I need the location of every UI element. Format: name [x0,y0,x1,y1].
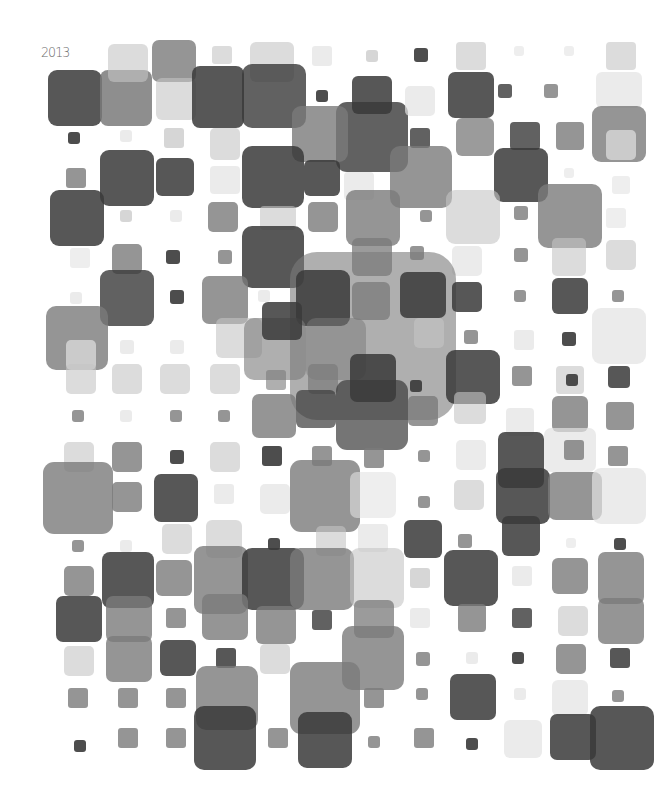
rounded-square [504,720,542,758]
rounded-square [312,610,332,630]
rounded-square [458,534,472,548]
rounded-square [514,46,524,56]
year-label: 2013 [41,44,69,60]
rounded-square [118,688,138,708]
rounded-square [512,566,532,586]
rounded-square [606,240,636,270]
rounded-square [120,410,132,422]
rounded-square [614,538,626,550]
rounded-square [112,364,142,394]
rounded-square [156,560,192,596]
rounded-square [290,548,354,610]
rounded-square [160,640,196,676]
rounded-square [514,206,528,220]
rounded-square [364,688,384,708]
rounded-square [514,330,534,350]
rounded-square [208,202,238,232]
rounded-square [66,168,86,188]
rounded-square [414,318,444,348]
rounded-square [252,394,296,438]
rounded-square [610,648,630,668]
rounded-square [170,340,184,354]
rounded-square [590,706,654,770]
rounded-square [552,278,588,314]
rounded-square [160,364,190,394]
rounded-square [308,202,338,232]
rounded-square [166,250,180,264]
rounded-square [606,42,636,70]
rounded-square [514,290,526,302]
rounded-square [43,462,113,534]
rounded-square [210,364,240,394]
rounded-square [606,130,636,160]
rounded-square [74,740,86,752]
rounded-square [452,246,482,276]
rounded-square [512,652,524,664]
rounded-square [298,712,352,768]
rounded-square [446,190,500,244]
rounded-square [400,272,446,318]
rounded-square [450,674,496,720]
rounded-square [454,480,484,510]
rounded-square [592,308,646,364]
rounded-square [118,728,138,748]
rounded-square [456,118,494,156]
rounded-square [218,250,232,264]
rounded-square [454,392,486,424]
rounded-square [120,130,132,142]
rounded-square [258,290,270,302]
rounded-square [456,440,486,470]
rounded-square [100,270,154,326]
rounded-square [418,496,430,508]
rounded-square [612,176,630,194]
rounded-square [410,608,430,628]
rounded-square [170,450,184,464]
rounded-square [120,210,132,222]
rounded-square [48,70,102,126]
rounded-square [466,738,478,750]
rounded-square [552,238,586,276]
rounded-square [606,208,626,228]
rounded-square [56,596,102,642]
rounded-square [410,568,430,588]
rounded-square [598,552,644,604]
rounded-square [544,84,558,98]
rounded-square [170,210,182,222]
rounded-square [152,40,196,82]
rounded-square [416,652,430,666]
rounded-square [405,86,435,116]
rounded-square [510,122,540,150]
rounded-square [404,520,442,558]
rounded-square [410,380,422,392]
rounded-square [120,340,134,354]
rounded-square [364,448,384,468]
rounded-square [210,128,240,160]
abstract-square-pattern-canvas: 2013 [0,0,654,797]
rounded-square [64,566,94,596]
rounded-square [552,680,588,716]
rounded-square [166,728,186,748]
rounded-square [502,516,540,556]
rounded-square [366,50,378,62]
rounded-square [256,606,296,644]
rounded-square [212,46,232,64]
rounded-square [556,122,584,150]
rounded-square [418,450,430,462]
rounded-square [552,396,588,432]
rounded-square [564,440,584,460]
rounded-square [216,648,236,668]
rounded-square [112,482,142,512]
rounded-square [556,644,586,674]
rounded-square [566,538,576,548]
rounded-square [68,688,88,708]
rounded-square [72,540,84,552]
rounded-square [464,330,478,344]
rounded-square [498,84,512,98]
rounded-square [612,690,624,702]
rounded-square [156,158,194,196]
rounded-square [202,276,248,324]
rounded-square [612,290,624,302]
rounded-square [170,290,184,304]
rounded-square [66,364,96,394]
rounded-square [458,604,486,632]
